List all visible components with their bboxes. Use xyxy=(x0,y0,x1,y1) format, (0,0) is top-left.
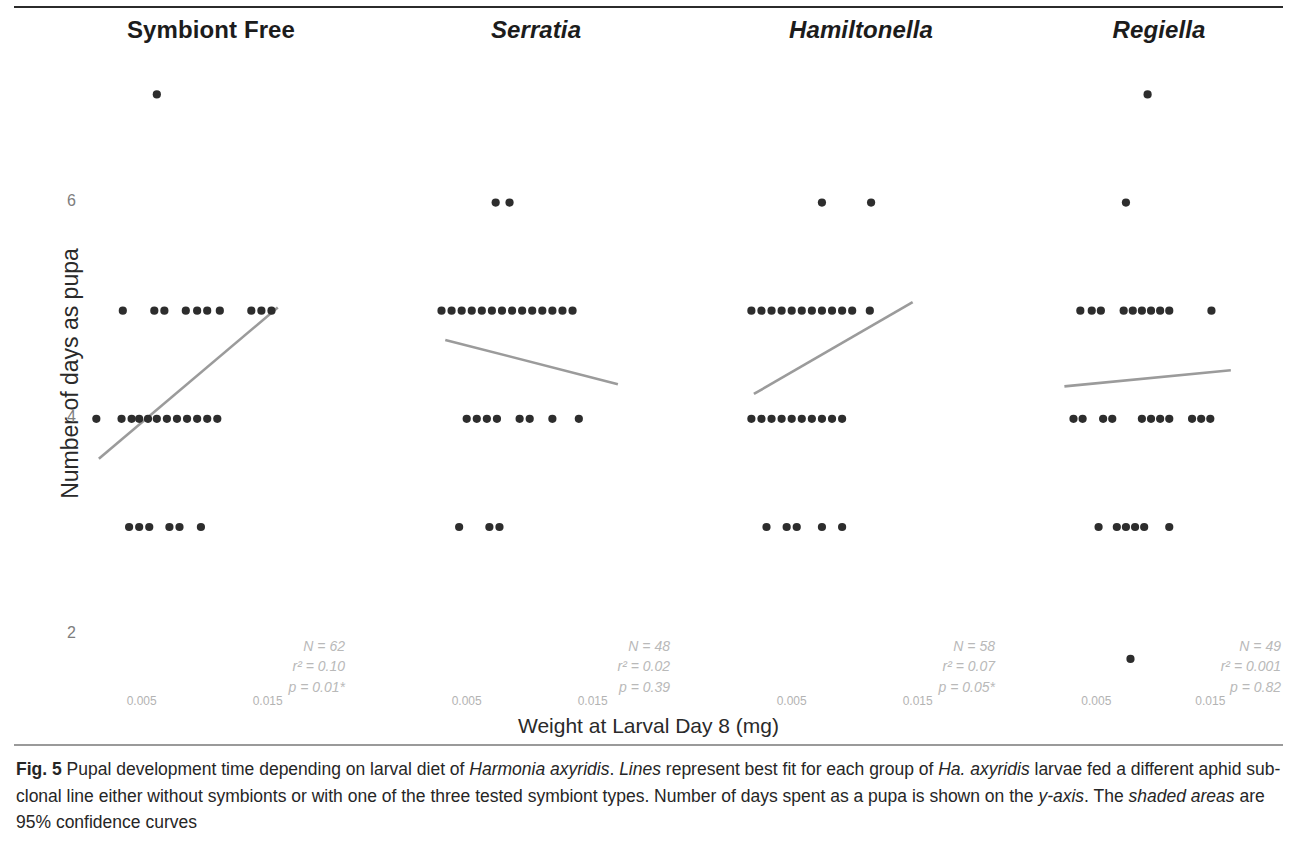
data-point xyxy=(182,307,190,315)
data-point xyxy=(1207,307,1215,315)
data-point xyxy=(135,415,143,423)
data-point xyxy=(1138,415,1146,423)
stats-symbiont-free: N = 62r² = 0.10p = 0.01* xyxy=(185,636,345,697)
stat-line-N: N = 49 xyxy=(1121,636,1281,656)
data-point xyxy=(437,307,445,315)
stat-line-r2: r² = 0.10 xyxy=(185,656,345,676)
data-point xyxy=(1097,307,1105,315)
fit-line xyxy=(445,340,618,384)
stat-line-N: N = 58 xyxy=(835,636,995,656)
caption-part-3: represent best fit for each group of xyxy=(661,759,938,779)
x-tick-label: 0.005 xyxy=(432,694,502,708)
data-point xyxy=(747,415,755,423)
data-point xyxy=(867,198,875,206)
data-point xyxy=(518,307,526,315)
data-point xyxy=(1122,198,1130,206)
data-point xyxy=(1079,415,1087,423)
data-point xyxy=(808,415,816,423)
data-point xyxy=(788,415,796,423)
data-point xyxy=(818,415,826,423)
fit-line xyxy=(754,302,913,394)
data-point xyxy=(175,523,183,531)
data-point xyxy=(848,307,856,315)
caption-part-1: Pupal development time depending on larv… xyxy=(62,759,470,779)
x-axis-label: Weight at Larval Day 8 (mg) xyxy=(0,714,1297,738)
data-point xyxy=(838,415,846,423)
data-point xyxy=(485,523,493,531)
panel-title-symbiont-free: Symbiont Free xyxy=(51,16,371,44)
stat-line-p: p = 0.01* xyxy=(185,677,345,697)
data-point xyxy=(818,307,826,315)
data-point xyxy=(788,307,796,315)
data-point xyxy=(173,415,181,423)
data-point xyxy=(818,198,826,206)
data-point xyxy=(478,307,486,315)
scatter-chart xyxy=(0,0,1297,740)
data-point xyxy=(568,307,576,315)
data-point xyxy=(493,415,501,423)
data-point xyxy=(183,415,191,423)
data-point xyxy=(1188,415,1196,423)
data-point xyxy=(516,415,524,423)
data-point xyxy=(778,307,786,315)
data-point xyxy=(150,307,158,315)
data-point xyxy=(193,307,201,315)
y-tick-label: 4 xyxy=(36,408,76,426)
data-point xyxy=(153,90,161,98)
data-point xyxy=(144,415,152,423)
fit-line xyxy=(99,307,278,458)
panel-title-regiella: Regiella xyxy=(999,16,1297,44)
data-point xyxy=(1197,415,1205,423)
fit-line xyxy=(1064,370,1230,386)
data-point xyxy=(455,523,463,531)
data-point xyxy=(1140,523,1148,531)
data-point xyxy=(866,307,874,315)
data-point xyxy=(1122,523,1130,531)
data-point xyxy=(1129,307,1137,315)
data-point xyxy=(193,415,201,423)
panel-title-serratia: Serratia xyxy=(376,16,696,44)
stat-line-r2: r² = 0.07 xyxy=(835,656,995,676)
data-point xyxy=(778,415,786,423)
data-point xyxy=(1113,523,1121,531)
data-point xyxy=(1156,307,1164,315)
data-point xyxy=(757,307,765,315)
x-tick-label: 0.005 xyxy=(107,694,177,708)
caption-emph-shaded: shaded areas xyxy=(1129,786,1235,806)
data-point xyxy=(1131,523,1139,531)
data-point xyxy=(1206,415,1214,423)
data-point xyxy=(135,523,143,531)
data-point xyxy=(505,198,513,206)
data-point xyxy=(160,307,168,315)
data-point xyxy=(488,307,496,315)
data-point xyxy=(1147,307,1155,315)
data-point xyxy=(247,307,255,315)
data-point xyxy=(767,415,775,423)
data-point xyxy=(1099,415,1107,423)
data-point xyxy=(798,307,806,315)
data-point xyxy=(747,307,755,315)
caption-emph-lines: Lines xyxy=(619,759,661,779)
data-point xyxy=(783,523,791,531)
data-point xyxy=(483,415,491,423)
data-point xyxy=(818,523,826,531)
figure-caption: Fig. 5 Pupal development time depending … xyxy=(16,756,1284,836)
data-point xyxy=(838,523,846,531)
caption-emph-yaxis: y-axis xyxy=(1038,786,1084,806)
data-point xyxy=(1147,415,1155,423)
stats-regiella: N = 49r² = 0.001p = 0.82 xyxy=(1121,636,1281,697)
data-point xyxy=(808,307,816,315)
data-point xyxy=(117,415,125,423)
y-axis-label: Number of days as pupa xyxy=(57,214,84,534)
data-point xyxy=(793,523,801,531)
data-point xyxy=(498,307,506,315)
stats-hamiltonella: N = 58r² = 0.07p = 0.05* xyxy=(835,636,995,697)
data-point xyxy=(767,307,775,315)
data-point xyxy=(267,307,275,315)
figure-bottom-rule xyxy=(14,744,1283,746)
data-point xyxy=(1165,415,1173,423)
data-point xyxy=(1076,307,1084,315)
data-point xyxy=(1165,523,1173,531)
data-point xyxy=(762,523,770,531)
data-point xyxy=(548,415,556,423)
